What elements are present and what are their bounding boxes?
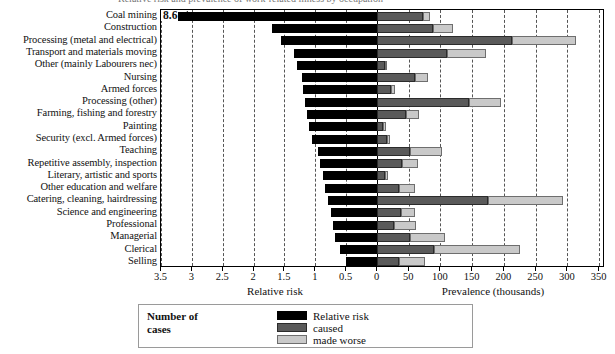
legend-title-line1: Number of bbox=[147, 310, 257, 323]
bar-caused bbox=[377, 221, 394, 230]
bar-row bbox=[161, 122, 603, 131]
category-label: Managerial bbox=[110, 230, 157, 242]
bar-row bbox=[161, 233, 603, 242]
category-label: Farming, fishing and forestry bbox=[37, 107, 157, 119]
bar-row bbox=[161, 73, 603, 82]
bar-caused bbox=[377, 61, 385, 70]
bar-made-worse bbox=[401, 208, 415, 217]
bar-caused bbox=[377, 196, 488, 205]
chart-title: Relative risk and prevalence of work-rel… bbox=[118, 0, 383, 4]
category-label: Clerical bbox=[125, 243, 157, 255]
category-label: Selling bbox=[128, 255, 157, 267]
bar-relative-risk bbox=[323, 171, 377, 180]
bar-row bbox=[161, 245, 603, 254]
bar-relative-risk bbox=[307, 110, 377, 119]
bar-relative-risk bbox=[312, 135, 377, 144]
bar-relative-risk bbox=[340, 245, 377, 254]
plot-area bbox=[160, 9, 604, 267]
bar-caused bbox=[377, 171, 385, 180]
bar-made-worse bbox=[434, 245, 520, 254]
bar-row bbox=[161, 49, 603, 58]
bar-row bbox=[161, 135, 603, 144]
category-label: Professional bbox=[106, 218, 157, 230]
category-label: Teaching bbox=[119, 144, 157, 156]
bar-made-worse bbox=[394, 221, 416, 230]
category-label: Processing (other) bbox=[82, 95, 157, 107]
bar-relative-risk bbox=[281, 36, 377, 45]
left-axis-1-tick-label: 3 bbox=[189, 271, 194, 282]
left-axis-2-tick-label: 2.5 bbox=[216, 271, 229, 282]
bar-row bbox=[161, 12, 603, 21]
bar-relative-risk bbox=[294, 49, 377, 58]
bar-caused bbox=[377, 85, 391, 94]
bar-row bbox=[161, 208, 603, 217]
bar-relative-risk bbox=[318, 147, 377, 156]
left-axis-3-tick-label: 2 bbox=[250, 271, 255, 282]
bar-relative-risk bbox=[161, 12, 377, 21]
bar-relative-risk bbox=[328, 196, 377, 205]
bar-made-worse bbox=[402, 159, 418, 168]
category-label: Construction bbox=[104, 21, 157, 33]
bar-relative-risk bbox=[333, 221, 377, 230]
bar-caused bbox=[377, 110, 406, 119]
bar-caused bbox=[377, 36, 512, 45]
right-axis-5-tick-label: 250 bbox=[527, 271, 543, 282]
bar-caused bbox=[377, 135, 387, 144]
category-label: Coal mining bbox=[106, 9, 157, 21]
legend-label: Relative risk bbox=[313, 310, 369, 322]
right-axis-2-tick-label: 100 bbox=[432, 271, 448, 282]
bar-caused bbox=[377, 24, 433, 33]
left-axis-7-tick-label: 0 bbox=[374, 271, 379, 282]
category-label: Other (mainly Labourers nec) bbox=[35, 58, 157, 70]
bar-made-worse bbox=[387, 135, 390, 144]
bar-made-worse bbox=[469, 98, 501, 107]
bar-caused bbox=[377, 73, 415, 82]
bar-caused bbox=[377, 257, 399, 266]
bar-made-worse bbox=[399, 257, 424, 266]
right-axis-1-tick-label: 50 bbox=[403, 271, 414, 282]
category-label: Transport and materials moving bbox=[26, 46, 157, 58]
bar-made-worse bbox=[433, 24, 453, 33]
bar-caused bbox=[377, 159, 402, 168]
bar-made-worse bbox=[399, 184, 415, 193]
category-label: Repetitive assembly, inspection bbox=[28, 157, 157, 169]
clipped-title-strip: Relative risk and prevalence of work-rel… bbox=[0, 0, 615, 6]
left-axis-0-tick-label: 3.5 bbox=[154, 271, 167, 282]
bar-relative-risk bbox=[325, 184, 377, 193]
bar-relative-risk bbox=[335, 233, 377, 242]
bar-made-worse bbox=[410, 147, 442, 156]
bar-made-worse bbox=[391, 85, 395, 94]
bar-row bbox=[161, 184, 603, 193]
right-axis-7-tick-label: 350 bbox=[591, 271, 607, 282]
category-label: Catering, cleaning, hairdressing bbox=[27, 193, 157, 205]
bar-caused bbox=[377, 233, 410, 242]
legend-swatch-worse bbox=[277, 335, 307, 344]
bar-relative-risk bbox=[305, 98, 377, 107]
bar-row bbox=[161, 196, 603, 205]
left-arrow-icon bbox=[179, 11, 188, 21]
offscale-annotation: 8.6 bbox=[161, 10, 188, 21]
bar-made-worse bbox=[385, 61, 387, 70]
bar-row bbox=[161, 257, 603, 266]
bar-caused bbox=[377, 184, 399, 193]
category-label: Other education and welfare bbox=[40, 181, 157, 193]
bar-caused bbox=[377, 147, 410, 156]
category-label: Painting bbox=[123, 120, 157, 132]
right-axis-6-tick-label: 300 bbox=[559, 271, 575, 282]
bar-row bbox=[161, 98, 603, 107]
bar-made-worse bbox=[385, 171, 388, 180]
bar-made-worse bbox=[512, 36, 575, 45]
bar-row bbox=[161, 24, 603, 33]
legend-label: caused bbox=[313, 322, 343, 334]
legend-title: Number of cases bbox=[147, 310, 257, 336]
bar-row bbox=[161, 171, 603, 180]
right-axis-4-tick-label: 200 bbox=[495, 271, 511, 282]
bar-made-worse bbox=[383, 122, 386, 131]
left-axis-5-tick-label: 1 bbox=[312, 271, 317, 282]
bar-row bbox=[161, 110, 603, 119]
bar-relative-risk bbox=[309, 122, 377, 131]
bar-relative-risk bbox=[303, 85, 377, 94]
bar-made-worse bbox=[488, 196, 563, 205]
legend: Number of cases Relative riskcausedmade … bbox=[138, 304, 473, 348]
category-label: Literary, artistic and sports bbox=[47, 169, 157, 181]
